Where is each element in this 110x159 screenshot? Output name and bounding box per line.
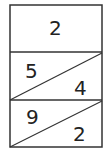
row2-bottom-right: 2 bbox=[73, 124, 86, 144]
top-cell-value: 2 bbox=[49, 18, 62, 38]
row1-bottom-right: 4 bbox=[74, 78, 87, 98]
diagonal-1 bbox=[10, 53, 102, 100]
diagonal-2 bbox=[10, 101, 102, 147]
row1-top-left: 5 bbox=[25, 61, 38, 81]
row2-top-left: 9 bbox=[26, 107, 39, 127]
